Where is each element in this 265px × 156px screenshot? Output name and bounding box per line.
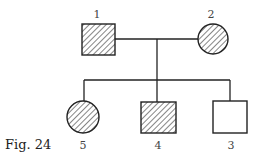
individual-2-female-affected — [198, 24, 228, 54]
label-2: 2 — [208, 8, 215, 21]
figure-caption: Fig. 24 — [5, 137, 51, 152]
individual-1-male-affected — [82, 24, 115, 55]
label-5: 5 — [80, 139, 87, 152]
pedigree-diagram: 1 2 5 4 3 Fig. 24 — [0, 0, 265, 156]
label-1: 1 — [94, 8, 101, 21]
label-4: 4 — [155, 139, 162, 152]
label-3: 3 — [228, 139, 235, 152]
individual-5-female-affected — [67, 101, 99, 133]
individual-3-male-unaffected — [213, 101, 247, 133]
individual-4-male-affected — [141, 102, 176, 133]
